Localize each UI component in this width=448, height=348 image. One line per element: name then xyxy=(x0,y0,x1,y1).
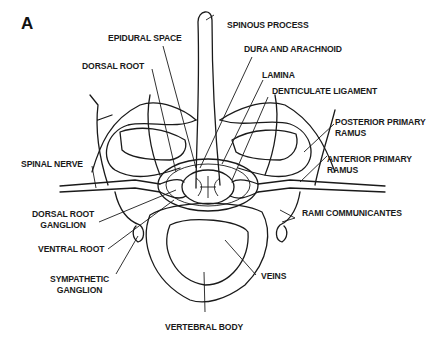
label-posterior-primary-ramus-line2: RAMUS xyxy=(335,128,426,139)
label-posterior-primary-ramus-line1: POSTERIOR PRIMARY xyxy=(335,117,426,128)
label-spinal-nerve: SPINAL NERVE xyxy=(21,159,83,170)
label-posterior-primary-ramus: POSTERIOR PRIMARY RAMUS xyxy=(335,117,426,139)
label-veins: VEINS xyxy=(261,271,286,282)
label-dura-and-arachnoid: DURA AND ARACHNOID xyxy=(244,44,342,55)
label-dorsal-root-ganglion-line2: GANGLION xyxy=(32,220,94,231)
label-anterior-primary-ramus: ANTERIOR PRIMARY RAMUS xyxy=(327,154,412,176)
anatomy-figure: A SPINOUS PROCESS EPIDURAL SPACE DURA AN… xyxy=(0,0,448,348)
label-anterior-primary-ramus-line2: RAMUS xyxy=(327,165,412,176)
label-dorsal-root-ganglion-line1: DORSAL ROOT xyxy=(32,209,94,220)
label-sympathetic-ganglion-line2: GANGLION xyxy=(50,285,109,296)
label-sympathetic-ganglion: SYMPATHETIC GANGLION xyxy=(50,274,109,296)
label-lamina: LAMINA xyxy=(262,70,295,81)
label-ventral-root: VENTRAL ROOT xyxy=(38,244,104,255)
label-anterior-primary-ramus-line1: ANTERIOR PRIMARY xyxy=(327,154,412,165)
label-dorsal-root: DORSAL ROOT xyxy=(82,61,144,72)
label-denticulate-ligament: DENTICULATE LIGAMENT xyxy=(272,86,377,97)
panel-label: A xyxy=(21,14,33,34)
label-spinous-process: SPINOUS PROCESS xyxy=(227,20,309,31)
label-rami-communicantes: RAMI COMMUNICANTES xyxy=(302,208,402,219)
label-dorsal-root-ganglion: DORSAL ROOT GANGLION xyxy=(32,209,94,231)
label-epidural-space: EPIDURAL SPACE xyxy=(108,33,182,44)
label-vertebral-body: VERTEBRAL BODY xyxy=(165,322,243,333)
label-sympathetic-ganglion-line1: SYMPATHETIC xyxy=(50,274,109,285)
